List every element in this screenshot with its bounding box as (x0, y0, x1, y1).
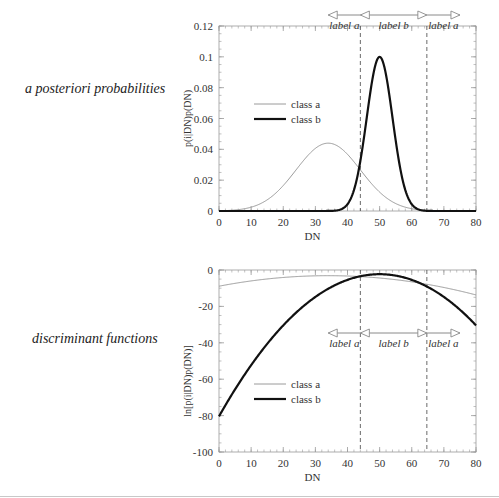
top-xtick-label: 80 (471, 216, 483, 228)
top-legend-label: class a (291, 98, 320, 110)
bottom-divider (0, 496, 499, 497)
top-xtick-label: 30 (310, 216, 322, 228)
bottom-xtick-label: 70 (438, 457, 450, 469)
bottom-xtick-label: 10 (246, 457, 258, 469)
bottom-ytick-label: -60 (198, 373, 213, 385)
top-ytick-label: 0.12 (194, 20, 213, 32)
top-region-label: label a (329, 19, 360, 31)
bottom-xlabel: DN (305, 471, 321, 483)
bottom-ytick-label: -40 (198, 337, 213, 349)
top-xtick-label: 10 (246, 216, 258, 228)
top-curve-class-b (219, 57, 476, 211)
top-ylabel: p(i|DN)p(DN) (182, 90, 194, 147)
bottom-ytick-label: -80 (198, 410, 213, 422)
top-ytick-label: 0.02 (194, 174, 213, 186)
bottom-arrowhead-right (418, 329, 427, 337)
bottom-xtick-label: 60 (406, 457, 418, 469)
bottom-arrowhead-left (328, 329, 337, 337)
top-xtick-label: 20 (278, 216, 290, 228)
bottom-arrowhead-right (451, 329, 460, 337)
top-arrowhead-right (418, 11, 427, 19)
top-xtick-label: 50 (374, 216, 386, 228)
bottom-legend-label: class a (291, 378, 320, 390)
bottom-plot-frame (219, 270, 476, 452)
bottom-region-label: label a (329, 337, 360, 349)
top-xtick-label: 60 (406, 216, 418, 228)
bottom-xtick-label: 30 (310, 457, 322, 469)
top-arrowhead-right (451, 11, 460, 19)
top-xlabel: DN (305, 230, 321, 242)
top-region-label: label b (378, 19, 409, 31)
bottom-ytick-label: -20 (198, 300, 213, 312)
top-curve-class-a (219, 143, 476, 211)
bottom-legend-label: class b (291, 393, 321, 405)
top-arrowhead-left (360, 11, 369, 19)
bottom-xtick-label: 40 (342, 457, 354, 469)
bottom-xtick-label: 80 (471, 457, 483, 469)
top-xtick-label: 70 (438, 216, 450, 228)
top-region-label: label a (428, 19, 459, 31)
top-ytick-label: 0.06 (194, 113, 214, 125)
bottom-ytick-label: 0 (208, 264, 214, 276)
top-xtick-label: 40 (342, 216, 354, 228)
top-legend-label: class b (291, 113, 321, 125)
bottom-xtick-label: 50 (374, 457, 386, 469)
top-xtick-label: 0 (216, 216, 222, 228)
top-ytick-label: 0.1 (199, 51, 213, 63)
bottom-xtick-label: 20 (278, 457, 290, 469)
bottom-ytick-label: -100 (193, 446, 214, 458)
bottom-region-label: label a (428, 337, 459, 349)
bottom-arrowhead-left (360, 329, 369, 337)
top-ytick-label: 0.08 (194, 82, 214, 94)
top-arrowhead-left (328, 11, 337, 19)
bottom-ylabel: ln[p(i|DN)p(DN)] (182, 345, 194, 416)
chart-canvas: 0102030405060708000.020.040.060.080.10.1… (0, 0, 499, 498)
bottom-region-label: label b (378, 337, 409, 349)
bottom-xtick-label: 0 (216, 457, 222, 469)
top-ytick-label: 0 (208, 205, 214, 217)
top-ytick-label: 0.04 (194, 143, 214, 155)
